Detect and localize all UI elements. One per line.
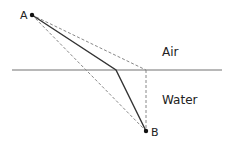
point-a-label: A xyxy=(20,9,28,22)
air-path-dashed xyxy=(32,15,146,70)
point-a-dot xyxy=(30,13,34,17)
refraction-diagram: A B Air Water xyxy=(0,0,234,146)
point-b-dot xyxy=(144,129,148,133)
straight-path-dashed xyxy=(32,15,146,131)
water-label: Water xyxy=(162,93,198,107)
air-label: Air xyxy=(162,45,179,59)
point-b-label: B xyxy=(151,126,159,139)
